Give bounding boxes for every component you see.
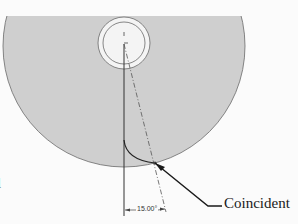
coincident-callout-label: Coincident xyxy=(224,195,290,212)
cropped-text-fragment: l xyxy=(0,175,1,192)
cad-sketch-figure xyxy=(0,0,298,224)
angle-dimension-label: 15.00° xyxy=(137,205,157,212)
coincident-leader xyxy=(155,163,222,206)
